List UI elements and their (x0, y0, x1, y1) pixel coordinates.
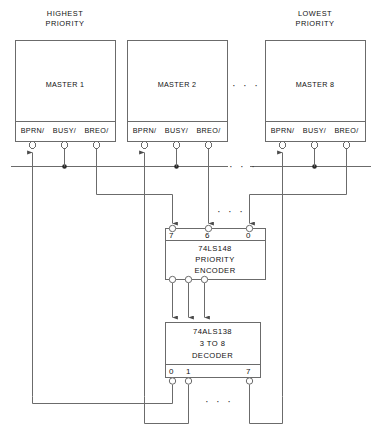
decoder-output-pin-0-number: 0 (169, 367, 173, 377)
master-1-label: MASTER 1 (15, 80, 115, 90)
encoder-part-number: 74LS148 (165, 244, 265, 254)
master-2-label: MASTER 2 (127, 80, 227, 90)
master-2-pin-busy-circle (173, 142, 179, 148)
master-2-pin-bprn-circle (141, 142, 147, 148)
decoder-output-pin-7-number: 7 (246, 367, 250, 377)
breq-path-master-8 (250, 149, 347, 224)
decoder-line3: DECODER (165, 351, 260, 361)
master-2-pin-breq-circle (205, 142, 211, 148)
master-1-pin-bprn-circle (29, 142, 35, 148)
master-1-pin-busy-circle (61, 142, 67, 148)
encoder-line2: PRIORITY (165, 255, 265, 265)
header-highest-priority-line1: HIGHEST (15, 9, 115, 19)
decoder-part-number: 74ALS138 (165, 327, 260, 337)
encoder-output-c-circle (201, 276, 207, 282)
header-lowest-priority-line1: LOWEST (265, 9, 365, 19)
master-8-pin-bprn-circle (279, 142, 285, 148)
master-1-pin-breq-label: BREO/ (78, 126, 115, 136)
header-highest-priority-line2: PRIORITY (15, 19, 115, 29)
encoder-input-pin-0-number: 0 (246, 231, 250, 241)
breq-path-master-1 (97, 149, 173, 224)
encoder-output-b-circle (185, 276, 191, 282)
decoder-output-pin-1-number: 1 (186, 367, 190, 377)
encoder-input-pin-6-number: 6 (205, 231, 209, 241)
master-8-pin-breq-circle (343, 142, 349, 148)
decoder-line2: 3 TO 8 (165, 339, 260, 349)
ellipsis-masters-gap: · · · (232, 80, 260, 91)
header-lowest-priority-line2: PRIORITY (265, 19, 365, 29)
master-2-pin-breq-label: BREO/ (190, 126, 227, 136)
encoder-output-a-circle (169, 276, 175, 282)
master-8-pin-busy-circle (311, 142, 317, 148)
decoder-output-7-circle (246, 378, 252, 384)
master-1-pin-breq-circle (93, 142, 99, 148)
master-8-label: MASTER 8 (265, 80, 365, 90)
ellipsis-bus-gap: · · · (229, 161, 257, 172)
decoder-output-1-circle (185, 378, 191, 384)
bus-arbitration-diagram: HIGHEST PRIORITY LOWEST PRIORITY MASTER … (0, 0, 376, 435)
grant-path-7-to-master-8 (250, 385, 283, 424)
decoder-output-0-circle (169, 378, 175, 384)
grant-path-0-to-master-1 (33, 385, 173, 404)
encoder-line3: ENCODER (165, 266, 265, 276)
ellipsis-encoder-inputs-gap: · · · (217, 206, 245, 217)
encoder-input-pin-7-number: 7 (169, 231, 173, 241)
ellipsis-decoder-outputs-gap: · · · (205, 396, 233, 407)
master-8-pin-breq-label: BREO/ (328, 126, 365, 136)
